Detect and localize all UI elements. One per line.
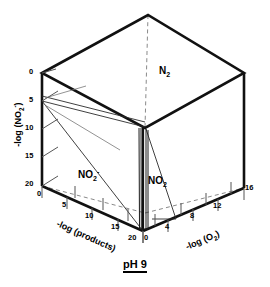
top-face-group bbox=[42, 15, 244, 128]
left-base-tick-label-5: 5 bbox=[62, 201, 66, 209]
left-base-tick-label-0: 0 bbox=[37, 190, 41, 198]
region-label-no2: NO2 bbox=[148, 176, 167, 188]
diagram-figure: 0 5 10 15 20 -log (NO2-) 0 5 10 15 20 -l… bbox=[0, 0, 270, 287]
region-label-n2-sub: 2 bbox=[166, 71, 170, 78]
no2-sliver-line-1 bbox=[139, 128, 140, 229]
cube-diagram-canvas bbox=[0, 0, 270, 287]
vertical-tick-label-20: 20 bbox=[25, 180, 33, 188]
region-label-n2: N2 bbox=[159, 66, 170, 78]
n2-no2m-boundary-left-lower bbox=[42, 101, 145, 127]
n2-no2-boundary-right bbox=[146, 129, 176, 219]
region-label-no2-minus-sup: - bbox=[97, 168, 99, 175]
vertical-axis-title-prefix: -log bbox=[13, 130, 23, 147]
figure-caption: pH 9 bbox=[0, 258, 270, 270]
vertical-tick-label-0: 0 bbox=[29, 68, 33, 76]
vertical-tick-label-10: 10 bbox=[25, 124, 33, 132]
region-label-no2-minus-species: NO bbox=[78, 169, 93, 180]
left-face-aux-line-2 bbox=[45, 105, 120, 150]
back-vertical-edge-dashed bbox=[145, 15, 148, 128]
left-base-tick-label-20: 20 bbox=[128, 234, 136, 242]
vertical-axis-ticks-group bbox=[42, 69, 58, 186]
top-face-outline bbox=[42, 15, 244, 128]
region-label-no2-species: NO bbox=[148, 175, 163, 186]
vertical-tick-label-5: 5 bbox=[29, 96, 33, 104]
vertical-axis-title: -log (NO2-) bbox=[12, 95, 25, 155]
left-base-tick-label-15: 15 bbox=[111, 223, 119, 231]
vertical-tick-label-15: 15 bbox=[25, 152, 33, 160]
right-base-tick-label-0: 0 bbox=[144, 234, 148, 242]
vertical-tick-20 bbox=[42, 176, 58, 186]
vertical-axis-title-sup: - bbox=[11, 105, 18, 107]
right-base-tick-label-16: 16 bbox=[245, 184, 253, 192]
vertical-tick-10 bbox=[42, 119, 58, 129]
right-base-tick-label-8: 8 bbox=[190, 212, 194, 220]
vertical-axis-title-species-wrap: (NO2-) bbox=[13, 102, 23, 127]
left-base-tick-label-10: 10 bbox=[85, 212, 93, 220]
vertical-tick-15 bbox=[42, 147, 58, 157]
region-label-no2-minus: NO2- bbox=[78, 168, 99, 182]
region-label-no2-minus-sub: 2 bbox=[93, 175, 97, 182]
figure-caption-text: pH 9 bbox=[123, 258, 147, 273]
right-base-tick-label-4: 4 bbox=[165, 223, 169, 231]
region-label-no2-sub: 2 bbox=[163, 181, 167, 188]
vertical-axis-title-sub: 2 bbox=[18, 108, 25, 112]
right-base-tick-label-12: 12 bbox=[213, 202, 221, 210]
vertical-axis-title-species: NO bbox=[13, 111, 23, 125]
